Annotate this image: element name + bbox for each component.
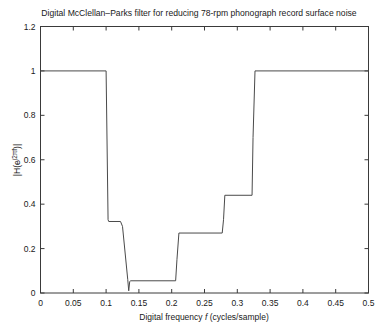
x-tick-label: 0.25 xyxy=(196,298,213,308)
x-tick-label: 0.3 xyxy=(231,298,243,308)
y-tick-label: 0.4 xyxy=(24,199,36,209)
x-tick-label: 0.45 xyxy=(327,298,344,308)
y-tick-label: 0.2 xyxy=(24,244,36,254)
x-tick-label: 0.1 xyxy=(100,298,112,308)
x-tick-label: 0.35 xyxy=(262,298,279,308)
x-tick-label: 0.05 xyxy=(65,298,82,308)
y-tick-label: 1.2 xyxy=(24,22,36,32)
y-tick-label: 0.8 xyxy=(24,110,36,120)
plot-background xyxy=(0,0,386,333)
y-tick-label: 1 xyxy=(31,66,36,76)
figure-container: Digital McClellan–Parks filter for reduc… xyxy=(0,0,386,333)
x-tick-label: 0.15 xyxy=(131,298,148,308)
x-tick-label: 0.4 xyxy=(297,298,309,308)
x-tick-label: 0.5 xyxy=(363,298,375,308)
x-tick-label: 0.2 xyxy=(166,298,178,308)
y-tick-label: 0 xyxy=(31,288,36,298)
chart-title: Digital McClellan–Parks filter for reduc… xyxy=(41,8,356,18)
x-axis-label: Digital frequency f (cycles/sample) xyxy=(139,312,269,322)
magnitude-response-plot: Digital McClellan–Parks filter for reduc… xyxy=(0,0,386,333)
y-tick-label: 0.6 xyxy=(24,155,36,165)
x-tick-label: 0 xyxy=(38,298,43,308)
